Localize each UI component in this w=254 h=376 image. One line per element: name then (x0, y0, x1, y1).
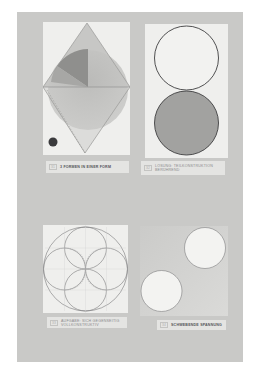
plate-number: 34 (160, 322, 168, 328)
plate-bottom-right (140, 226, 228, 316)
plate-caption-top-left: 31 3 Formen in einer Form (46, 161, 129, 173)
diamond-circle-figure (43, 22, 130, 155)
plate-bottom-left (43, 225, 128, 313)
floating-circles-figure (140, 226, 228, 316)
two-circles-figure (145, 24, 228, 158)
plate-number: 32 (144, 165, 152, 171)
plate-top-right (145, 24, 228, 158)
plate-title: Aufgabe: Sich gegenseitig vollkonstrukti… (61, 319, 124, 327)
plate-caption-top-right: 32 Lösung: Teilkonstruktion Berührend (141, 161, 225, 175)
plate-title: 3 Formen in einer Form (60, 165, 111, 169)
plate-top-left (43, 22, 130, 155)
plate-number: 33 (50, 320, 58, 326)
rosette-figure (43, 225, 128, 313)
plate-title: Schwebende Spannung (171, 323, 222, 327)
plate-title: Lösung: Teilkonstruktion Berührend (155, 164, 222, 172)
plate-caption-bottom-left: 33 Aufgabe: Sich gegenseitig vollkonstru… (47, 317, 127, 328)
plate-number: 31 (49, 164, 57, 170)
plate-caption-bottom-right: 34 Schwebende Spannung (157, 320, 226, 330)
document-page: 31 3 Formen in einer Form 32 Lösung: Tei… (17, 12, 243, 362)
